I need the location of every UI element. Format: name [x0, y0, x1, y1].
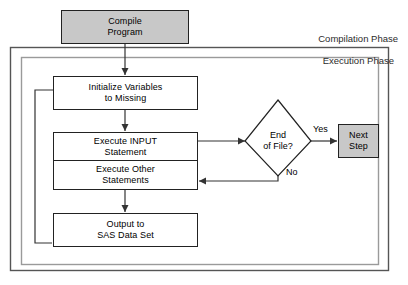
node-execute-other-statements-line2: Statements [102, 175, 149, 186]
node-output-to-sas-data-set[interactable]: Output to SAS Data Set [53, 213, 198, 247]
edge-label-yes: Yes [313, 124, 328, 134]
node-next-step[interactable]: Next Step [338, 124, 379, 158]
node-compile-program-line1: Compile [108, 16, 142, 27]
node-initialize-variables[interactable]: Initialize Variables to Missing [53, 76, 198, 110]
execution-phase-label: Execution Phase [323, 55, 394, 66]
node-execute-other-statements[interactable]: Execute Other Statements [53, 161, 198, 190]
node-execute-input-statement-line2: Statement [105, 147, 147, 158]
node-output-to-sas-data-set-line2: SAS Data Set [97, 230, 154, 241]
node-initialize-variables-line1: Initialize Variables [89, 82, 163, 93]
edge-end-of-file-no-to-execute-other [199, 176, 278, 181]
compilation-phase-label: Compilation Phase [318, 33, 398, 44]
node-compile-program-line2: Program [107, 27, 142, 38]
node-next-step-line1: Next [349, 130, 368, 141]
edge-label-no: No [286, 167, 298, 177]
node-compile-program[interactable]: Compile Program [61, 10, 189, 44]
node-end-of-file-line1: End [255, 130, 301, 141]
node-execute-input-statement[interactable]: Execute INPUT Statement [53, 132, 198, 161]
node-end-of-file-line2: of File? [255, 141, 301, 152]
node-end-of-file[interactable]: End of File? [255, 130, 301, 152]
node-execute-other-statements-line1: Execute Other [96, 164, 155, 175]
flowchart-diagram: Compilation Phase Execution Phase Compil… [0, 0, 408, 285]
node-next-step-line2: Step [349, 141, 368, 152]
node-initialize-variables-line2: to Missing [105, 93, 147, 104]
node-execute-input-statement-line1: Execute INPUT [94, 136, 157, 147]
node-output-to-sas-data-set-line1: Output to [107, 219, 145, 230]
